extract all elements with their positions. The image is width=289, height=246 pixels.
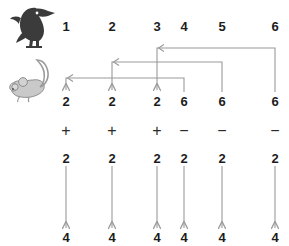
result-cell: 4 <box>148 231 166 245</box>
operator-cell: − <box>213 123 231 139</box>
mouse-row-cell: 6 <box>213 95 231 109</box>
operand-cell: 2 <box>148 152 166 166</box>
operator-cell: − <box>175 123 193 139</box>
operator-cell: − <box>266 123 284 139</box>
result-cell: 4 <box>175 231 193 245</box>
bird-row-cell: 1 <box>57 20 75 34</box>
bird-row-cell: 4 <box>175 20 193 34</box>
routing-arrow-6-to-1 <box>66 75 184 93</box>
diagram-canvas: 1 2 3 4 5 6 2 2 2 6 6 6 + + + − − − 2 2 … <box>0 0 289 246</box>
mouse-row-cell: 6 <box>175 95 193 109</box>
operator-cell: + <box>57 123 75 139</box>
bird-row-cell: 5 <box>213 20 231 34</box>
operator-cell: + <box>103 123 121 139</box>
mouse-row-cell: 2 <box>103 95 121 109</box>
result-cell: 4 <box>103 231 121 245</box>
mouse-row-cell: 2 <box>57 95 75 109</box>
operand-cell: 2 <box>57 152 75 166</box>
mouse-row-cell: 6 <box>266 95 284 109</box>
operand-cell: 2 <box>213 152 231 166</box>
bird-row-cell: 6 <box>266 20 284 34</box>
operand-cell: 2 <box>266 152 284 166</box>
mouse-row-cell: 2 <box>148 95 166 109</box>
operand-cell: 2 <box>175 152 193 166</box>
operator-cell: + <box>148 123 166 139</box>
routing-arrow-6-to-3 <box>157 45 275 93</box>
bird-row-cell: 3 <box>148 20 166 34</box>
result-cell: 4 <box>266 231 284 245</box>
result-cell: 4 <box>57 231 75 245</box>
routing-arrow-6-to-2 <box>112 59 222 93</box>
operand-cell: 2 <box>103 152 121 166</box>
bird-row-cell: 2 <box>103 20 121 34</box>
arrow-layer <box>0 0 289 246</box>
result-cell: 4 <box>213 231 231 245</box>
